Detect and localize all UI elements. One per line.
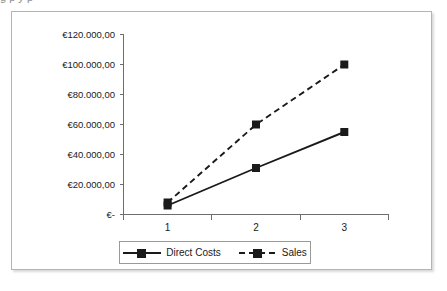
series-sales-marker [340,61,348,69]
y-tick-label: €20.000,00 [67,179,115,190]
clipped-caption-artifact: g p y p [0,0,447,9]
y-tick-label: €120.000,00 [62,29,115,40]
legend-item-sales: Sales [239,247,307,259]
chart-frame: €- €20.000,00 €40.000,00 €60.000,00 €80.… [11,11,432,270]
y-tick-label: €60.000,00 [67,119,115,130]
series-direct-costs-marker [252,164,260,172]
legend-dashed-line-marker-icon [239,247,277,259]
x-tick-label: 3 [342,222,348,233]
y-axis-ticks [120,35,124,215]
legend-label-direct-costs: Direct Costs [166,247,220,258]
plot-area: €- €20.000,00 €40.000,00 €60.000,00 €80.… [12,12,431,269]
y-tick-label: €40.000,00 [67,149,115,160]
series-direct-costs [164,128,349,210]
y-tick-label: €80.000,00 [67,89,115,100]
y-axis-tick-labels: €- €20.000,00 €40.000,00 €60.000,00 €80.… [62,29,115,220]
series-sales-line [168,65,345,203]
chart-legend: Direct Costs Sales [119,241,311,264]
series-sales [164,61,349,207]
x-tick-label: 1 [165,222,171,233]
y-tick-label: €- [107,209,115,220]
series-sales-marker [252,121,260,129]
legend-label-sales: Sales [282,247,307,258]
clipped-caption-text: g p y p [0,0,33,3]
x-axis-tick-labels: 1 2 3 [165,222,348,233]
chart-figure: g p y p €- €20.000,00 €40.000,00 [0,0,447,291]
legend-item-direct-costs: Direct Costs [123,247,220,259]
y-tick-label: €100.000,00 [62,59,115,70]
legend-solid-line-marker-icon [123,247,161,259]
x-tick-label: 2 [253,222,259,233]
x-axis-ticks [124,215,389,220]
series-direct-costs-marker [164,202,172,210]
series-direct-costs-marker [340,128,348,136]
